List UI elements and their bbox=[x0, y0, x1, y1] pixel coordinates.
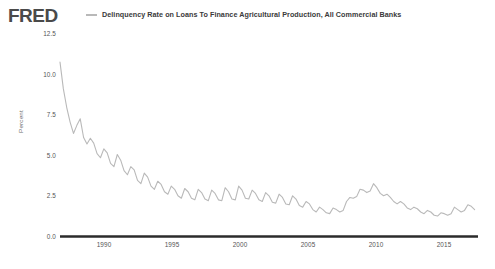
fred-chart-figure: FRED Delinquency Rate on Loans To Financ… bbox=[0, 0, 495, 269]
plot-area bbox=[0, 0, 495, 269]
series-line-delinquency-rate bbox=[60, 62, 475, 216]
